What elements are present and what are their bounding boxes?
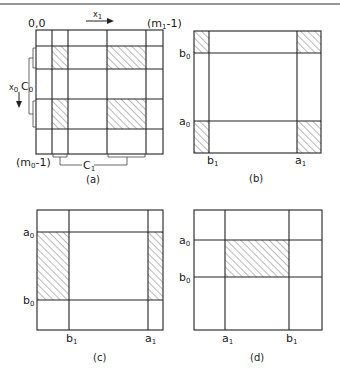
x1-axis-label: x1 <box>93 10 102 21</box>
a0-label: a0 <box>179 234 190 248</box>
x0-axis-label: x0 <box>9 83 18 94</box>
c1-bracket-left <box>53 154 67 165</box>
hatched-region <box>225 240 289 277</box>
top-right-label: (m1-1) <box>147 17 182 31</box>
hatched-region <box>37 232 69 300</box>
x1-arrow-head-icon <box>107 18 114 24</box>
hatched-region <box>148 232 163 300</box>
c0-label: C0 <box>21 80 33 94</box>
b1-label: b1 <box>66 332 77 346</box>
x0-arrow-head-icon <box>16 101 22 108</box>
b0-label: b0 <box>179 271 190 285</box>
c0-bracket-upper <box>29 48 36 68</box>
hatched-region <box>107 46 146 69</box>
panel-caption: (b) <box>249 173 263 184</box>
hatched-region <box>52 99 68 129</box>
hatched-region <box>52 46 68 69</box>
b0-label: b0 <box>23 294 34 308</box>
a0-label: a0 <box>23 226 34 240</box>
a0-label: a0 <box>179 115 190 129</box>
a1-label: a1 <box>295 154 306 168</box>
origin-label: 0,0 <box>28 17 46 30</box>
hatched-region <box>194 31 209 53</box>
panel-a: 0,0 x1 (m1-1) C0 x0 (m0-1) C1 (a) <box>9 10 182 185</box>
c1-label: C1 <box>83 159 95 173</box>
c1-bracket-right <box>108 154 145 165</box>
b1-label: b1 <box>286 332 297 346</box>
panel-caption: (a) <box>86 174 100 185</box>
b1-label: b1 <box>207 154 218 168</box>
a1-label: a1 <box>145 332 156 346</box>
panel-b: b0 a0 b1 a1 (b) <box>179 31 321 184</box>
a1-label: a1 <box>222 332 233 346</box>
panel-caption: (c) <box>93 352 106 363</box>
hatched-region <box>194 121 209 153</box>
panel-c: a0 b0 b1 a1 (c) <box>23 210 163 363</box>
hatched-region <box>297 121 321 153</box>
panel-d: a0 b0 a1 b1 (d) <box>179 210 322 363</box>
figure-canvas: 0,0 x1 (m1-1) C0 x0 (m0-1) C1 (a) <box>0 0 340 381</box>
hatched-region <box>107 99 146 129</box>
panel-caption: (d) <box>250 352 264 363</box>
bottom-left-label: (m0-1) <box>16 156 51 170</box>
b0-label: b0 <box>179 47 190 61</box>
c0-bracket-lower <box>29 101 36 127</box>
hatched-region <box>297 31 321 53</box>
